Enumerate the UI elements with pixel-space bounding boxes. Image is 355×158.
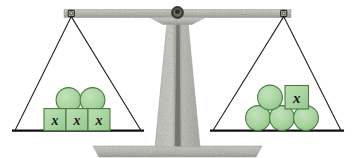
- balance-scale-diagram: x x x: [0, 0, 355, 158]
- x-square: x: [44, 109, 66, 131]
- x-square-label: x: [73, 113, 81, 128]
- x-square-label: x: [95, 113, 103, 128]
- x-square-label: x: [51, 113, 59, 128]
- diagram-canvas: x x x: [0, 0, 355, 158]
- x-square: x: [88, 109, 110, 131]
- right-pan-assembly: x: [211, 17, 343, 131]
- beam-assembly: [64, 6, 291, 24]
- base-slab: [93, 146, 262, 157]
- left-pan-squares: x x x: [44, 109, 110, 131]
- x-square: x: [66, 109, 88, 131]
- pivot: [171, 6, 184, 19]
- x-square-label: x: [292, 90, 301, 106]
- left-pan-assembly: x x x: [13, 17, 143, 131]
- unit-circle: [258, 85, 283, 110]
- scale-stand: [93, 22, 262, 157]
- x-square: x: [285, 86, 309, 110]
